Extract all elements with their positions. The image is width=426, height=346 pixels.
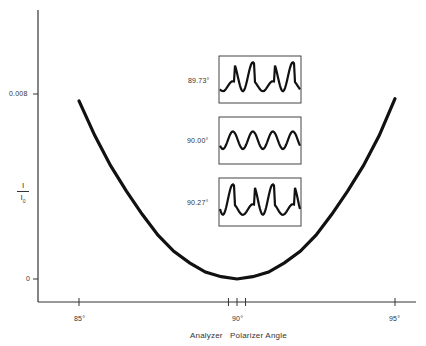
y-tick-label-0008: 0.008 <box>9 90 28 97</box>
x-tick-label-95: 95° <box>389 315 400 322</box>
chart-canvas <box>0 0 426 346</box>
x-tick-label-85: 85° <box>74 315 85 322</box>
inset-label-2: 90.00° <box>187 137 209 144</box>
x-axis-label: Analyzer Polarizer Angle <box>190 331 287 340</box>
y-ticks <box>33 94 38 279</box>
y-tick-label-0: 0 <box>26 275 30 282</box>
inset-label-1: 89.73° <box>188 77 210 84</box>
y-label-numerator: I <box>22 181 24 190</box>
inset-label-3: 90.27° <box>187 199 209 206</box>
inset-90-00 <box>219 117 301 164</box>
inset-89-73 <box>219 56 301 103</box>
y-axis-label: I I0 <box>17 181 29 204</box>
y-label-subscript: 0 <box>23 198 26 204</box>
x-tick-label-90: 90° <box>232 315 243 322</box>
inset-90-27 <box>219 178 301 226</box>
